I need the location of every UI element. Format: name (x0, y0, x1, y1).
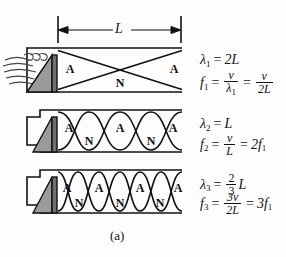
tube-2-antinode-label-3: A (167, 121, 179, 136)
lambda-2-equals: = (214, 116, 222, 131)
tube-2-antinode-label-1: A (63, 121, 75, 136)
tube-3-node-label-2: N (114, 196, 126, 211)
f-2-frac-denominator: L (224, 144, 235, 157)
lambda-1-subscript: 1 (206, 59, 211, 69)
f-3-equals: = (211, 196, 219, 211)
f-2-equals: = (211, 137, 219, 152)
lambda-1-equals: = (214, 52, 222, 67)
tube-1-antinode-label-2: A (168, 62, 180, 77)
tube-3-wedge (33, 177, 52, 213)
f-1-equals: = (211, 75, 219, 90)
f-1-frac1-numerator: v (224, 69, 238, 81)
figure-linework (0, 0, 286, 257)
equation-frequency-3: f3=3v2L=3f1 (200, 192, 272, 217)
equation-frequency-2: f2=vL=2f1 (200, 133, 266, 158)
f-2-subscript: 2 (204, 143, 209, 153)
f-3-fraction: 3v2L (224, 191, 241, 216)
f-1-mid-equals: = (243, 75, 251, 90)
lambda-2-rhs: L (224, 116, 232, 131)
f-2-mid-equals: = (240, 137, 248, 152)
tube-3-antinode-label-4: A (172, 181, 184, 196)
tube-1-edge-bar (52, 55, 57, 92)
f-3-subscript: 3 (204, 202, 209, 212)
equation-frequency-1: f1=vλ1=v2L (200, 70, 275, 98)
lambda-2-subscript: 2 (206, 123, 211, 133)
standing-wave-figure: A A N A A A N N A A A A N N N L λ1=2L f1… (0, 0, 286, 257)
f-2-rhs: 2f (251, 137, 262, 152)
equation-wavelength-1: λ1=2L (200, 52, 239, 69)
f-1-frac2-denominator: 2L (256, 82, 273, 95)
f-3-frac-denominator: 2L (224, 203, 241, 216)
f-1-fraction-2: v2L (256, 70, 273, 95)
tube-3-antinode-label-3: A (134, 181, 146, 196)
f-2-rhs-subscript: 1 (262, 143, 267, 153)
f-3-rhs-subscript: 1 (268, 202, 273, 212)
tube-1-fundamental (3, 48, 182, 92)
lambda-3-rhs: L (238, 177, 246, 192)
tube-2-second-harmonic (27, 110, 182, 152)
f-1-frac1-denominator-subscript: 1 (232, 87, 237, 97)
f-1-frac2-numerator: v (256, 70, 273, 82)
f-1-subscript: 1 (204, 82, 209, 92)
tube-3-edge-bar (52, 177, 57, 213)
tube-3-antinode-label-2: A (93, 181, 105, 196)
tube-3-antinode-label-1: A (61, 181, 73, 196)
tube-3-node-label-3: N (154, 196, 166, 211)
lambda-3-equals: = (214, 177, 222, 192)
tube-2-edge-bar (52, 117, 57, 152)
f-1-fraction-1: vλ1 (224, 69, 238, 97)
lambda-1-rhs: 2L (224, 52, 239, 67)
lambda-3-frac-numerator: 2 (226, 172, 236, 184)
figure-caption: (a) (110, 228, 124, 244)
f-2-fraction: vL (224, 132, 235, 157)
f-3-rhs: 3f (257, 196, 268, 211)
tube-1-node-label-1: N (114, 76, 126, 91)
tube-2-antinode-label-2: A (114, 121, 126, 136)
f-3-mid-equals: = (246, 196, 254, 211)
tube-2-wedge (33, 117, 52, 152)
tube-2-node-label-1: N (83, 134, 95, 149)
dimension-label-L: L (115, 21, 123, 37)
tube-2-node-label-2: N (145, 134, 157, 149)
f-2-frac-numerator: v (224, 132, 235, 144)
f-3-frac-numerator: 3v (224, 191, 241, 203)
tube-3-node-label-1: N (73, 196, 85, 211)
tube-1-antinode-label-1: A (64, 62, 76, 77)
